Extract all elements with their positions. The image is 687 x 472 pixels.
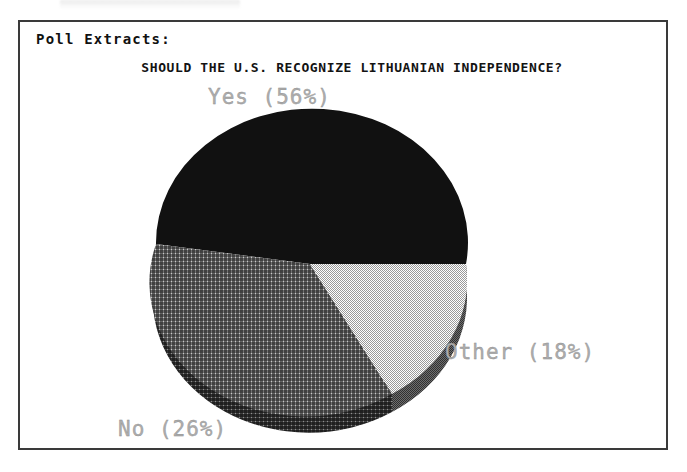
pie-label-other: Other (18%) [445,340,595,364]
pie-slice-yes [156,109,468,264]
scan-artifact [60,0,240,9]
pie-chart-svg [20,22,670,452]
pie-label-yes: Yes (56%) [208,85,331,109]
pie-label-no: No (26%) [118,417,227,441]
pie-chart: Yes (56%) Other (18%) No (26%) [20,22,670,452]
poll-extract-frame: Poll Extracts: SHOULD THE U.S. RECOGNIZE… [18,20,668,450]
